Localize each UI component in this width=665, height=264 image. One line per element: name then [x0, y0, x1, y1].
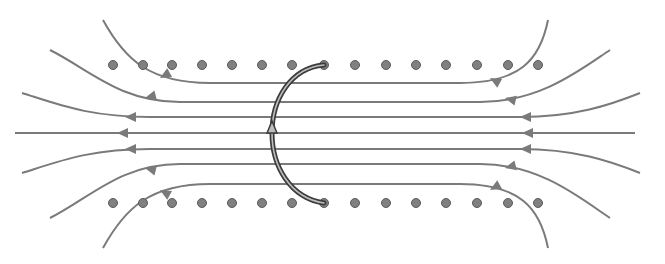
conductor-dot [382, 61, 391, 70]
conductor-dot [534, 61, 543, 70]
conductor-dot [504, 61, 513, 70]
arrowhead-left-icon [117, 128, 128, 138]
arrowhead-left-icon [144, 90, 157, 102]
field-line [22, 93, 640, 117]
field-line [22, 149, 640, 173]
arrowhead-left-icon [520, 112, 531, 122]
conductor-dot [534, 199, 543, 208]
conductor-dot [473, 199, 482, 208]
conductor-dot [351, 199, 360, 208]
conductor-dot [109, 61, 118, 70]
arrowhead-left-icon [125, 144, 136, 154]
conductor-dot [351, 61, 360, 70]
conductor-dot [109, 199, 118, 208]
conductor-dot [258, 61, 267, 70]
field-diagram [0, 0, 665, 264]
conductor-dot [139, 199, 148, 208]
conductor-dot [473, 61, 482, 70]
arrowhead-left-icon [144, 163, 157, 175]
conductor-dot [228, 199, 237, 208]
conductor-dot [442, 61, 451, 70]
conductor-dot [198, 61, 207, 70]
conductor-dot [504, 199, 513, 208]
conductor-dot [412, 199, 421, 208]
arrowhead-left-icon [520, 144, 531, 154]
field-lines-group [15, 20, 640, 248]
arrowhead-up-icon [267, 121, 277, 133]
conductor-dot [288, 199, 297, 208]
conductor-dot [228, 61, 237, 70]
conductor-dot [382, 199, 391, 208]
conductor-dot [139, 61, 148, 70]
field-line [50, 50, 610, 102]
conductor-dot [198, 199, 207, 208]
diagram-canvas [0, 0, 665, 264]
conductor-dot [168, 61, 177, 70]
conductor-dot [258, 199, 267, 208]
field-line [50, 164, 610, 218]
conductor-dot [168, 199, 177, 208]
conductor-dot [288, 61, 297, 70]
conductor-dot [442, 199, 451, 208]
arrowhead-left-icon [125, 112, 136, 122]
conductor-dot [412, 61, 421, 70]
arrowhead-left-icon [522, 128, 533, 138]
